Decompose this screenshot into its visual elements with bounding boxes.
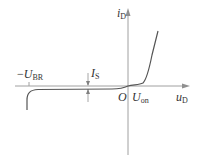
breakdown-voltage-label: −UBR [17,68,43,82]
origin-label: O [118,91,127,103]
turn-on-voltage-label: Uon [132,91,149,105]
x-axis-arrow-icon [182,84,190,89]
saturation-current-label: IS [91,67,99,81]
y-axis-arrow-icon [126,8,131,16]
x-axis-label: uD [176,91,188,105]
y-axis-label: iD [117,7,126,21]
is-down-arrow-icon [86,81,90,86]
